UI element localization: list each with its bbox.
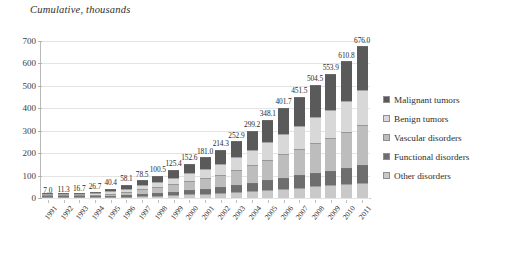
bar-segment[interactable] xyxy=(262,160,273,180)
bar-segment[interactable] xyxy=(278,108,289,134)
bar-column[interactable] xyxy=(325,74,336,198)
bar-column[interactable] xyxy=(42,196,53,198)
bar-column[interactable] xyxy=(121,185,132,198)
bar-column[interactable] xyxy=(294,97,305,198)
bar-segment[interactable] xyxy=(247,191,258,198)
bar-segment[interactable] xyxy=(310,117,321,143)
bar-column[interactable] xyxy=(152,175,163,198)
bar-segment[interactable] xyxy=(184,181,195,190)
bar-segment[interactable] xyxy=(168,184,179,191)
bar-segment[interactable] xyxy=(105,197,116,198)
bar-segment[interactable] xyxy=(341,61,352,101)
bar-segment[interactable] xyxy=(200,157,211,168)
bar-segment[interactable] xyxy=(247,183,258,191)
bar-segment[interactable] xyxy=(231,192,242,198)
bar-segment[interactable] xyxy=(325,138,336,170)
bar-segment[interactable] xyxy=(200,194,211,198)
bar-segment[interactable] xyxy=(215,175,226,187)
bar-column[interactable] xyxy=(168,170,179,198)
legend-item[interactable]: Benign tumors xyxy=(383,109,515,128)
bar-column[interactable] xyxy=(247,131,258,198)
bar-segment[interactable] xyxy=(325,74,336,110)
bar-column[interactable] xyxy=(231,141,242,198)
bar-column[interactable] xyxy=(278,108,289,198)
bar-segment[interactable] xyxy=(215,164,226,175)
bar-segment[interactable] xyxy=(278,178,289,189)
bar-segment[interactable] xyxy=(74,197,85,198)
bar-column[interactable] xyxy=(200,157,211,198)
bar-segment[interactable] xyxy=(42,197,53,198)
bar-value-label: 252.9 xyxy=(228,131,244,140)
bar-segment[interactable] xyxy=(231,170,242,185)
bar-segment[interactable] xyxy=(121,197,132,198)
bar-column[interactable] xyxy=(184,164,195,198)
bar-segment[interactable] xyxy=(215,193,226,198)
bar-segment[interactable] xyxy=(247,150,258,165)
y-axis-labels: 0100200300400500600700 xyxy=(0,41,36,199)
bar-segment[interactable] xyxy=(310,173,321,187)
bar-column[interactable] xyxy=(137,180,148,198)
bar-segment[interactable] xyxy=(215,150,226,164)
bar-column[interactable] xyxy=(58,195,69,198)
bar-value-label: 7.0 xyxy=(43,186,52,195)
bar-column[interactable] xyxy=(90,192,101,198)
bar-segment[interactable] xyxy=(184,164,195,174)
y-tick-label: 500 xyxy=(6,81,36,91)
bar-segment[interactable] xyxy=(310,85,321,118)
bar-segment[interactable] xyxy=(325,110,336,139)
bar-segment[interactable] xyxy=(278,154,289,177)
bar-segment[interactable] xyxy=(294,175,305,187)
bar-column[interactable] xyxy=(74,194,85,198)
bar-column[interactable] xyxy=(357,46,368,198)
bar-column[interactable] xyxy=(215,150,226,198)
legend-item[interactable]: Vascular disorders xyxy=(383,128,515,147)
bar-segment[interactable] xyxy=(278,189,289,198)
legend-item[interactable]: Other disorders xyxy=(383,166,515,185)
bar-segment[interactable] xyxy=(262,180,273,189)
bar-segment[interactable] xyxy=(262,120,273,142)
bar-segment[interactable] xyxy=(247,131,258,150)
chart-title: Cumulative, thousands xyxy=(30,4,130,15)
bar-segment[interactable] xyxy=(58,197,69,198)
bar-segment[interactable] xyxy=(200,178,211,189)
bar-segment[interactable] xyxy=(231,157,242,170)
bar-segment[interactable] xyxy=(294,126,305,149)
bar-segment[interactable] xyxy=(357,165,368,183)
bar-segment[interactable] xyxy=(310,186,321,198)
bar-segment[interactable] xyxy=(341,168,352,184)
legend-item[interactable]: Functional disorders xyxy=(383,147,515,166)
bar-segment[interactable] xyxy=(357,90,368,125)
bar-segment[interactable] xyxy=(262,142,273,160)
bar-segment[interactable] xyxy=(231,141,242,157)
bar-segment[interactable] xyxy=(184,194,195,198)
bar-segment[interactable] xyxy=(152,196,163,198)
bar-segment[interactable] xyxy=(90,197,101,198)
bar-column[interactable] xyxy=(341,61,352,198)
bar-segment[interactable] xyxy=(357,46,368,90)
bar-segment[interactable] xyxy=(357,125,368,164)
bar-segment[interactable] xyxy=(278,134,289,155)
bar-segment[interactable] xyxy=(341,184,352,198)
bar-segment[interactable] xyxy=(357,183,368,198)
bar-segment[interactable] xyxy=(262,190,273,198)
bar-segment[interactable] xyxy=(294,97,305,126)
bar-column[interactable] xyxy=(105,189,116,198)
bar-segment[interactable] xyxy=(247,165,258,182)
bar-segment[interactable] xyxy=(184,173,195,181)
bar-segment[interactable] xyxy=(231,185,242,192)
x-tick-mark xyxy=(362,200,363,203)
bar-segment[interactable] xyxy=(294,149,305,175)
bar-segment[interactable] xyxy=(341,132,352,168)
bar-column[interactable] xyxy=(310,85,321,198)
bar-segment[interactable] xyxy=(310,143,321,172)
bar-segment[interactable] xyxy=(325,171,336,186)
bar-segment[interactable] xyxy=(168,195,179,198)
bar-column[interactable] xyxy=(262,120,273,198)
bar-segment[interactable] xyxy=(168,170,179,178)
bar-segment[interactable] xyxy=(341,101,352,133)
bar-segment[interactable] xyxy=(137,196,148,198)
bar-segment[interactable] xyxy=(325,185,336,198)
bar-segment[interactable] xyxy=(294,188,305,198)
bar-segment[interactable] xyxy=(200,169,211,178)
legend-item[interactable]: Malignant tumors xyxy=(383,90,515,109)
